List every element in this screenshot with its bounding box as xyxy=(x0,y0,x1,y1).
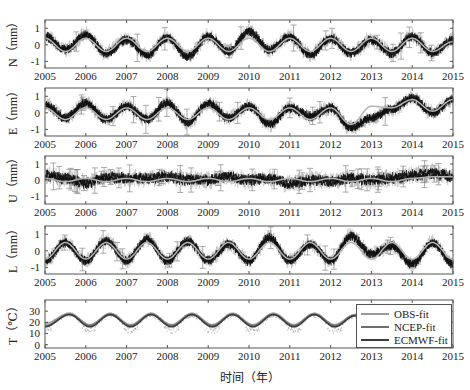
ytick-label: 0 xyxy=(35,339,41,351)
xtick-label: 2011 xyxy=(279,70,301,82)
xtick-label: 2012 xyxy=(320,138,342,150)
xtick-label: 2007 xyxy=(116,206,139,218)
xtick-label: 2006 xyxy=(75,206,98,218)
ytick-label: 30 xyxy=(29,305,41,317)
xtick-label: 2007 xyxy=(116,138,139,150)
xtick-label: 2011 xyxy=(279,138,301,150)
xtick-label: 2007 xyxy=(116,276,139,288)
xtick-label: 2006 xyxy=(75,276,98,288)
legend-entry-ncep: NCEP-fit xyxy=(361,320,436,333)
legend-line-obs-icon xyxy=(361,313,389,315)
ytick-label: 10 xyxy=(29,327,41,339)
xtick-label: 2012 xyxy=(320,206,342,218)
ylabel-n: N（mm） xyxy=(3,23,21,67)
ytick-label: 0 xyxy=(35,39,41,51)
xtick-label: 2006 xyxy=(75,70,98,82)
xtick-label: 2013 xyxy=(360,276,383,288)
panel-e: 2005200620072008200920102011201220132014… xyxy=(31,88,465,150)
xtick-label: 2011 xyxy=(279,206,301,218)
ytick-label: 0 xyxy=(35,174,41,186)
ylabel-t: T（℃） xyxy=(3,301,21,345)
xtick-label: 2010 xyxy=(238,70,261,82)
xtick-label: 2011 xyxy=(279,350,301,362)
panel-l: 2005200620072008200920102011201220132014… xyxy=(31,226,465,288)
xtick-label: 2012 xyxy=(320,70,342,82)
ytick-label: -1 xyxy=(31,55,40,67)
xtick-label: 2010 xyxy=(238,350,261,362)
legend-label-obs: OBS-fit xyxy=(394,308,429,320)
xtick-label: 2015 xyxy=(442,206,465,218)
xtick-label: 2007 xyxy=(116,350,139,362)
ytick-label: 20 xyxy=(29,316,41,328)
legend-line-ecmwf-icon xyxy=(361,339,389,341)
figure: 2005200620072008200920102011201220132014… xyxy=(0,0,470,390)
legend-entry-ecmwf: ECMWF-fit xyxy=(361,333,448,346)
xtick-label: 2008 xyxy=(156,70,179,82)
xtick-label: 2014 xyxy=(401,276,424,288)
xtick-label: 2006 xyxy=(75,350,98,362)
xlabel: 时间（年） xyxy=(200,368,300,386)
xtick-label: 2013 xyxy=(360,70,383,82)
xtick-label: 2015 xyxy=(442,70,465,82)
legend-label-ncep: NCEP-fit xyxy=(394,321,436,333)
xtick-label: 2014 xyxy=(401,206,424,218)
ytick-label: 1 xyxy=(35,22,41,34)
xtick-label: 2008 xyxy=(156,350,179,362)
xtick-label: 2005 xyxy=(34,206,57,218)
xtick-label: 2010 xyxy=(238,138,261,150)
xtick-label: 2015 xyxy=(442,138,465,150)
xtick-label: 2007 xyxy=(116,70,139,82)
ytick-label: 1 xyxy=(35,228,41,240)
xtick-label: 2009 xyxy=(197,70,220,82)
xtick-label: 2005 xyxy=(34,70,57,82)
ytick-label: -1 xyxy=(31,190,40,202)
xtick-label: 2013 xyxy=(360,350,383,362)
ytick-label: 1 xyxy=(35,158,41,170)
xtick-label: 2008 xyxy=(156,206,179,218)
xtick-label: 2005 xyxy=(34,138,57,150)
xtick-label: 2009 xyxy=(197,350,220,362)
legend-label-ecmwf: ECMWF-fit xyxy=(394,334,448,346)
ytick-label: 0 xyxy=(35,107,41,119)
ytick-label: 1 xyxy=(35,90,41,102)
xtick-label: 2015 xyxy=(442,276,465,288)
xtick-label: 2008 xyxy=(156,138,179,150)
xtick-label: 2009 xyxy=(197,276,220,288)
xtick-label: 2005 xyxy=(34,350,57,362)
xtick-label: 2010 xyxy=(238,276,261,288)
xtick-label: 2014 xyxy=(401,138,424,150)
xtick-label: 2005 xyxy=(34,276,57,288)
xtick-label: 2011 xyxy=(279,276,301,288)
ylabel-l: L（mm） xyxy=(3,229,21,273)
xtick-label: 2014 xyxy=(401,70,424,82)
ylabel-u: U（mm） xyxy=(3,159,21,203)
panel-n: 2005200620072008200920102011201220132014… xyxy=(31,20,465,82)
xtick-label: 2008 xyxy=(156,276,179,288)
ytick-label: -1 xyxy=(31,261,40,273)
xtick-label: 2009 xyxy=(197,206,220,218)
xtick-label: 2014 xyxy=(401,350,424,362)
ytick-label: 0 xyxy=(35,245,41,257)
xtick-label: 2015 xyxy=(442,350,465,362)
xtick-label: 2012 xyxy=(320,350,342,362)
legend: OBS-fit NCEP-fit ECMWF-fit xyxy=(356,304,452,348)
xtick-label: 2006 xyxy=(75,138,98,150)
xtick-label: 2013 xyxy=(360,138,383,150)
legend-entry-obs: OBS-fit xyxy=(361,307,429,320)
legend-line-ncep-icon xyxy=(361,326,389,328)
xtick-label: 2013 xyxy=(360,206,383,218)
xtick-label: 2010 xyxy=(238,206,261,218)
ytick-label: -1 xyxy=(31,123,40,135)
ylabel-e: E（mm） xyxy=(3,91,21,135)
panel-u: 2005200620072008200920102011201220132014… xyxy=(31,156,465,218)
xtick-label: 2009 xyxy=(197,138,220,150)
xtick-label: 2012 xyxy=(320,276,342,288)
